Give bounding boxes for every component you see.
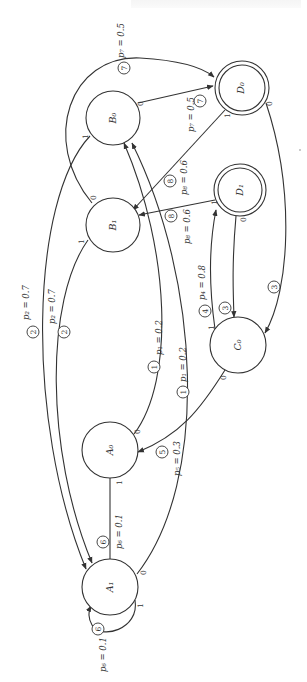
tag-4: 4 [199, 305, 211, 317]
bit-label: 0 [136, 101, 145, 106]
bit-label: 0 [89, 195, 98, 200]
bit-label: 1 [81, 134, 90, 139]
svg-text:1: 1 [179, 390, 188, 395]
tag-2-outer: 2 [27, 326, 39, 338]
bit-label: 1 [207, 325, 216, 330]
svg-text:B₁: B₁ [107, 220, 118, 232]
tag-8-lower: 8 [165, 210, 177, 222]
svg-text:8: 8 [166, 178, 175, 183]
bit-label: 1 [115, 480, 124, 485]
tag-6-loop: 6 [92, 623, 104, 635]
prob-p2-inner: p₂ = 0.7 [47, 289, 57, 324]
bit-label: 0 [139, 570, 148, 575]
edge-a0-b0 [124, 143, 162, 434]
tag-2-inner: 2 [58, 326, 70, 338]
svg-text:7: 7 [120, 65, 129, 70]
prob-p2-outer: p₂ = 0.7 [21, 285, 31, 320]
prob-p6-loop: p₆ = 0.1 [98, 637, 108, 672]
node-b1: B₁ [86, 198, 140, 252]
speck [299, 149, 301, 151]
node-b0: B₀ [86, 91, 140, 145]
node-a0: A₀ [82, 422, 138, 478]
svg-text:D₀: D₀ [235, 82, 246, 95]
svg-text:1: 1 [150, 365, 159, 370]
bit-label: 0 [265, 101, 274, 106]
bit-label: 0 [239, 217, 248, 222]
bit-label: 1 [223, 113, 232, 118]
state-transition-diagram: D₀ B₀ D₁ B₁ C₀ A₀ A₁ 0 1 0 1 1 0 1 0 1 0… [0, 0, 307, 682]
prob-p8-lower: p₈ = 0.6 [182, 209, 192, 244]
svg-text:4: 4 [201, 308, 210, 313]
svg-text:2: 2 [29, 329, 38, 334]
tag-5: 5 [156, 446, 168, 458]
node-d0: D₀ [215, 61, 269, 115]
svg-text:5: 5 [158, 449, 167, 454]
node-a1: A₁ [82, 559, 138, 615]
tag-8-upper: 8 [164, 175, 176, 187]
prob-p8-upper: p₈ = 0.6 [179, 160, 189, 195]
bit-label: 0 [133, 429, 142, 434]
bit-label: 1 [210, 200, 219, 205]
edge-d0-c0 [265, 103, 286, 333]
svg-text:2: 2 [60, 329, 69, 334]
tag-1-inner: 1 [148, 361, 160, 373]
svg-text:3: 3 [221, 305, 230, 310]
bit-label: 1 [77, 239, 86, 244]
prob-p7-inner: p₇ = 0.5 [186, 97, 196, 132]
prob-p1-outer: p₁ = 0.2 [178, 347, 188, 382]
prob-p4: p₄ = 0.8 [197, 265, 207, 300]
edge-b0-a1 [43, 136, 90, 569]
tag-1-outer: 1 [177, 386, 189, 398]
svg-text:D₁: D₁ [234, 184, 245, 196]
svg-text:7: 7 [196, 98, 205, 103]
edge-d1-b1 [139, 200, 215, 215]
svg-text:6: 6 [94, 626, 103, 631]
svg-text:6: 6 [99, 539, 108, 544]
tag-3-inner: 3 [219, 302, 231, 314]
svg-text:B₀: B₀ [107, 112, 118, 124]
svg-text:C₀: C₀ [232, 339, 243, 350]
prob-p5: p₅ = 0.3 [172, 441, 182, 476]
node-d1: D₁ [214, 164, 266, 216]
svg-text:A₁: A₁ [104, 582, 115, 594]
edge-b1-a1 [56, 240, 92, 563]
node-c0: C₀ [210, 317, 266, 373]
prob-p6-mid: p₆ = 0.1 [114, 514, 124, 549]
tag-6-mid: 6 [97, 536, 109, 548]
tag-3-outer: 3 [268, 281, 280, 293]
svg-text:3: 3 [270, 284, 279, 289]
prob-p7-outer: p₇ = 0.5 [116, 23, 126, 58]
bit-label: 0 [219, 375, 228, 380]
bit-label: 1 [136, 603, 145, 608]
svg-text:8: 8 [167, 213, 176, 218]
edge-d1-c0 [233, 216, 236, 317]
svg-text:A₀: A₀ [104, 444, 115, 456]
tag-7-outer: 7 [118, 62, 130, 74]
prob-p1-inner: p₁ = 0.2 [154, 320, 164, 355]
